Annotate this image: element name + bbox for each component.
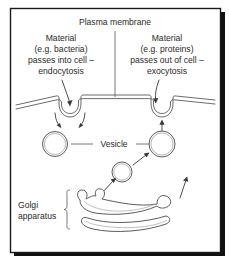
endocytosis-pinch-arrows (55, 113, 85, 128)
exocytosis-outflow-arrows (153, 80, 165, 133)
golgi-to-transport-arrow (103, 178, 116, 192)
golgi-apparatus-structure (78, 189, 171, 232)
vesicle-endocytic (43, 132, 68, 157)
endocytosis-caption-line2: (e.g. bacteria) (34, 44, 87, 54)
endocytosis-caption-line1: Material (46, 33, 77, 43)
golgi-cisterna-upper (78, 189, 171, 215)
golgi-caption: Golgi apparatus (18, 200, 56, 221)
golgi-cisterna-lower (81, 216, 169, 231)
exocytosis-caption-line1: Material (152, 33, 183, 43)
transport-arrow-shaft (133, 155, 146, 165)
transport-to-exocytic-arrow (133, 153, 150, 166)
endocytosis-caption-line3: passes into cell – (28, 55, 94, 65)
golgi-right-export-arrow (180, 177, 188, 199)
vesicle-exocytic (149, 131, 175, 157)
figure-container: Plasma membrane Material (e.g. bacteria)… (0, 0, 229, 266)
endocytosis-caption-line4: endocytosis (38, 66, 83, 76)
exocytosis-caption-line4: exocytosis (147, 66, 187, 76)
golgi-label-line2: apparatus (18, 211, 56, 221)
endocytosis-arrow-shaft (62, 80, 70, 103)
golgi-budding-arrow-shaft (103, 181, 113, 192)
pinch-arrow-left-head (57, 123, 62, 128)
endocytosis-inflow-arrows (62, 80, 73, 107)
exocytosis-caption: Material (e.g. proteins) passes out of c… (130, 33, 204, 76)
golgi-export-arrow-head (183, 177, 188, 182)
vesicle-exocytic-outline (149, 131, 175, 157)
plasma-membrane-label: Plasma membrane (79, 17, 151, 27)
golgi-label-line1: Golgi (18, 200, 38, 210)
cell-transport-diagram: Plasma membrane Material (e.g. bacteria)… (0, 0, 229, 266)
golgi-export-arrow-shaft (180, 180, 186, 198)
exocytosis-rise-arrow-head (159, 120, 164, 125)
exocytosis-caption-line2: (e.g. proteins) (140, 44, 193, 54)
membrane-inner-leaflet (16, 99, 215, 114)
vesicle-label: Vesicle (100, 139, 127, 149)
exocytosis-top-arrow-shaft (155, 80, 159, 100)
endocytosis-caption: Material (e.g. bacteria) passes into cel… (28, 33, 94, 76)
vesicle-endocytic-outline (43, 132, 68, 157)
frame-shadow-right (221, 12, 225, 256)
exocytosis-caption-line3: passes out of cell – (130, 55, 204, 65)
golgi-bracket-icon (64, 190, 70, 229)
pinch-arrow-right-head (79, 123, 84, 128)
plasma-membrane-structure (16, 95, 215, 117)
endocytosis-arrow-head (67, 100, 72, 106)
